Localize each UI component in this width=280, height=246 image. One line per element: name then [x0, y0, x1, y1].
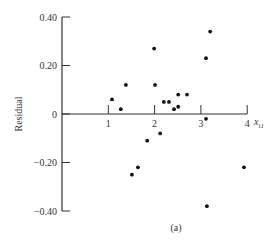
data-point: [185, 93, 189, 97]
x-tick-label: 1: [106, 118, 111, 129]
residual-scatter-plot: 0.400.200−0.20−0.40 1234 Residual xi1 (a…: [0, 0, 280, 246]
data-point: [130, 173, 134, 177]
data-point: [176, 105, 180, 109]
x-axis-ticks: 1234: [106, 105, 250, 129]
data-point: [176, 93, 180, 97]
data-point: [153, 83, 157, 87]
y-tick-label: 0: [52, 109, 57, 120]
data-point: [119, 107, 123, 111]
data-point: [162, 100, 166, 104]
y-axis-title: Residual: [13, 96, 24, 131]
data-point: [167, 100, 171, 104]
figure-caption: (a): [170, 222, 181, 234]
y-tick-label: −0.20: [34, 157, 57, 168]
data-point: [145, 139, 149, 143]
data-point: [242, 165, 246, 169]
data-point: [208, 30, 212, 34]
y-axis-ticks: 0.400.200−0.20−0.40: [34, 12, 70, 217]
data-point: [136, 165, 140, 169]
x-tick-label: 2: [152, 118, 157, 129]
data-point: [205, 204, 209, 208]
data-point: [172, 107, 176, 111]
x-axis-title-subscript: i1: [258, 122, 263, 130]
data-point: [204, 117, 208, 121]
data-point: [110, 98, 114, 102]
data-point: [158, 132, 162, 136]
x-axis-title: xi1: [253, 116, 264, 130]
data-point: [124, 83, 128, 87]
data-point: [204, 56, 208, 60]
y-tick-label: 0.20: [40, 60, 58, 71]
data-points: [110, 30, 246, 208]
x-tick-label: 4: [245, 118, 250, 129]
data-point: [152, 47, 156, 51]
y-tick-label: 0.40: [40, 12, 58, 23]
y-tick-label: −0.40: [34, 206, 57, 217]
x-tick-label: 3: [198, 118, 203, 129]
